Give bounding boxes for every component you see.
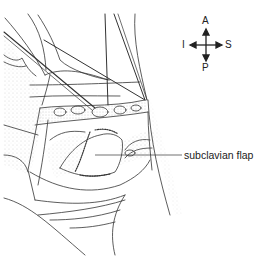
surgical-illustration <box>0 0 261 265</box>
compass-superior-label: S <box>225 40 232 50</box>
compass-inferior-label: I <box>182 40 185 50</box>
compass-posterior-label: P <box>202 63 209 73</box>
compass-anterior-label: A <box>202 16 209 26</box>
subclavian-flap-label: subclavian flap <box>184 150 253 161</box>
orientation-compass-arrows <box>190 29 222 61</box>
retractor-and-tissue-layers <box>4 14 182 255</box>
